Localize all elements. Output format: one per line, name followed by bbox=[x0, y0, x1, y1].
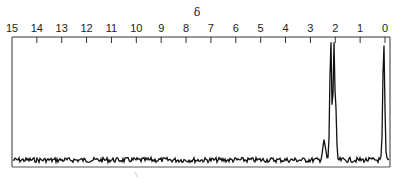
x-axis-title: δ bbox=[194, 6, 201, 19]
x-tick-label: 1 bbox=[357, 22, 363, 34]
x-axis-ticks: 1514131211109876543210 bbox=[6, 22, 388, 43]
x-tick-label: 12 bbox=[80, 22, 92, 34]
x-tick-label: 2 bbox=[332, 22, 338, 34]
x-tick-label: 6 bbox=[233, 22, 239, 34]
scan-artifact: \ bbox=[135, 170, 138, 179]
x-tick-label: 8 bbox=[183, 22, 189, 34]
x-tick-label: 4 bbox=[282, 22, 288, 34]
x-tick-label: 13 bbox=[56, 22, 68, 34]
x-tick-label: 3 bbox=[307, 22, 313, 34]
x-tick-label: 0 bbox=[382, 22, 388, 34]
x-tick-label: 5 bbox=[258, 22, 264, 34]
spectrum-trace bbox=[13, 42, 389, 162]
x-tick-label: 14 bbox=[31, 22, 43, 34]
x-tick-label: 9 bbox=[158, 22, 164, 34]
x-tick-label: 7 bbox=[208, 22, 214, 34]
x-tick-label: 10 bbox=[130, 22, 142, 34]
nmr-spectrum-chart: 1514131211109876543210 δ \ bbox=[0, 0, 401, 179]
x-tick-label: 15 bbox=[6, 22, 18, 34]
x-tick-label: 11 bbox=[106, 22, 117, 34]
